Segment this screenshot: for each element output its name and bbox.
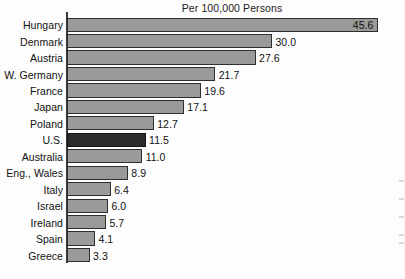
bar-value-label: 11.5	[146, 134, 169, 146]
category-label: France	[30, 85, 63, 97]
category-label: Ireland	[31, 217, 63, 229]
bar-rect	[67, 83, 201, 97]
bar-value-label: 45.6	[353, 19, 379, 31]
scan-artifact-strip	[398, 176, 405, 246]
bar-rect-highlighted	[67, 133, 146, 147]
bar-row: Australia11.0	[0, 149, 405, 165]
plot-area: Hungary45.6Denmark30.0Austria27.6W. Germ…	[0, 17, 405, 263]
bar-value-label: 5.7	[106, 217, 124, 229]
bar-row: Hungary45.6	[0, 17, 405, 33]
bar-value-label: 12.7	[154, 118, 178, 130]
bar-rect	[67, 215, 106, 229]
scan-artifact-mark	[399, 180, 404, 182]
bar-row: Israel6.0	[0, 198, 405, 214]
bar-rect	[67, 166, 128, 180]
bar-row: Japan17.1	[0, 99, 405, 115]
bar-value-label: 8.9	[128, 167, 146, 179]
bar-value-label: 19.6	[201, 85, 225, 97]
bar-row: Poland12.7	[0, 116, 405, 132]
bar-value-label: 6.4	[111, 184, 129, 196]
bar-value-label: 3.3	[90, 250, 108, 262]
scan-artifact-mark	[399, 216, 404, 218]
bar-value-label: 17.1	[184, 101, 208, 113]
bar-value-label: 21.7	[215, 69, 239, 81]
bar-row: Italy6.4	[0, 182, 405, 198]
bar-chart-figure: Per 100,000 Persons Hungary45.6Denmark30…	[0, 0, 405, 279]
scan-artifact-mark	[399, 198, 404, 200]
bar-rect	[67, 149, 142, 163]
bar-row: Austria27.6	[0, 50, 405, 66]
category-label: Spain	[36, 233, 63, 245]
category-label: Australia	[22, 151, 63, 163]
bar-rect	[67, 182, 111, 196]
category-label: Poland	[30, 118, 63, 130]
bar-rect	[67, 18, 378, 32]
scan-artifact-mark	[399, 242, 404, 244]
bar-value-label: 11.0	[142, 151, 165, 163]
bar-value-label: 6.0	[108, 200, 126, 212]
category-label: Denmark	[20, 36, 63, 48]
bar-row: France19.6	[0, 83, 405, 99]
chart-title: Per 100,000 Persons	[67, 2, 397, 14]
bar-rect	[67, 67, 215, 81]
bar-row: Greece3.3	[0, 247, 405, 263]
category-label: W. Germany	[4, 69, 63, 81]
bar-rect	[67, 231, 95, 245]
bar-rect	[67, 50, 256, 64]
category-label: Eng., Wales	[6, 167, 63, 179]
category-label: Greece	[28, 250, 63, 262]
bar-row: Denmark30.0	[0, 33, 405, 49]
category-label: Italy	[43, 184, 63, 196]
bar-row: Spain4.1	[0, 231, 405, 247]
bar-value-label: 27.6	[256, 52, 280, 64]
category-label: Japan	[34, 101, 63, 113]
scan-artifact-mark	[399, 234, 404, 236]
category-label: Israel	[37, 200, 63, 212]
bar-row: Eng., Wales8.9	[0, 165, 405, 181]
bar-row: W. Germany21.7	[0, 66, 405, 82]
bar-value-label: 4.1	[95, 233, 113, 245]
bar-rect	[67, 199, 108, 213]
bar-row: Ireland5.7	[0, 214, 405, 230]
category-label: Hungary	[23, 19, 63, 31]
category-label: U.S.	[42, 134, 63, 146]
category-label: Austria	[30, 52, 63, 64]
bar-row: U.S.11.5	[0, 132, 405, 148]
bar-rect	[67, 100, 184, 114]
bar-rect	[67, 34, 272, 48]
bar-rect	[67, 116, 154, 130]
bar-rect	[67, 248, 90, 262]
bar-value-label: 30.0	[272, 36, 296, 48]
